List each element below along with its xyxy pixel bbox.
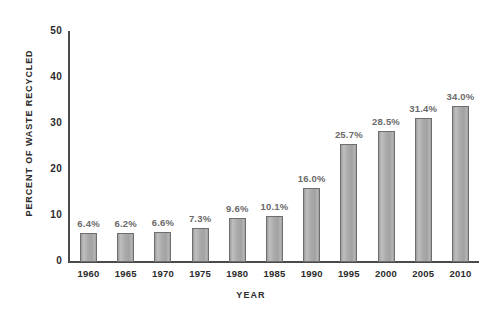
- y-tick-label: 20: [40, 163, 62, 174]
- bar-value-label: 7.3%: [175, 213, 225, 224]
- bar[interactable]: [192, 228, 209, 262]
- bar-chart: PERCENT OF WASTE RECYCLED 01020304050 6.…: [0, 0, 502, 324]
- y-tick-label: 10: [40, 209, 62, 220]
- x-tick-label: 2010: [443, 268, 477, 279]
- bar[interactable]: [452, 106, 469, 262]
- y-axis-title: PERCENT OF WASTE RECYCLED: [24, 33, 34, 233]
- bar[interactable]: [117, 233, 134, 262]
- y-axis-tick-labels: 01020304050: [38, 0, 62, 324]
- bar[interactable]: [303, 188, 320, 262]
- x-tick-label: 1965: [109, 268, 143, 279]
- x-axis-tick-labels: 1960196519701975198019851990199520002005…: [70, 268, 479, 284]
- bar[interactable]: [229, 218, 246, 262]
- x-tick-label: 2005: [406, 268, 440, 279]
- x-tick-label: 1960: [72, 268, 106, 279]
- bar-group: 7.3%: [182, 26, 219, 262]
- bar[interactable]: [415, 118, 432, 262]
- bar-group: 31.4%: [405, 26, 442, 262]
- x-axis-title: YEAR: [0, 290, 502, 300]
- plot-area: 6.4%6.2%6.6%7.3%9.6%10.1%16.0%25.7%28.5%…: [70, 26, 479, 262]
- x-tick-label: 1980: [220, 268, 254, 279]
- x-tick-label: 1970: [146, 268, 180, 279]
- bar-value-label: 28.5%: [361, 116, 411, 127]
- bar-value-label: 16.0%: [287, 173, 337, 184]
- y-tick-label: 40: [40, 71, 62, 82]
- bar-group: 9.6%: [219, 26, 256, 262]
- x-tick-label: 1990: [295, 268, 329, 279]
- x-tick-label: 2000: [369, 268, 403, 279]
- bar[interactable]: [378, 131, 395, 262]
- x-tick-label: 1975: [183, 268, 217, 279]
- y-tick-label: 0: [40, 255, 62, 266]
- bar-group: 6.6%: [144, 26, 181, 262]
- bar[interactable]: [154, 232, 171, 262]
- bar-group: 28.5%: [367, 26, 404, 262]
- bar-value-label: 34.0%: [435, 91, 485, 102]
- bar-group: 10.1%: [256, 26, 293, 262]
- bar-group: 16.0%: [293, 26, 330, 262]
- bar-value-label: 10.1%: [250, 201, 300, 212]
- x-tick-label: 1995: [332, 268, 366, 279]
- bar[interactable]: [266, 216, 283, 262]
- bar[interactable]: [340, 144, 357, 262]
- y-tick-label: 50: [40, 25, 62, 36]
- bar-group: 34.0%: [442, 26, 479, 262]
- bar-value-label: 25.7%: [324, 129, 374, 140]
- bar-group: 25.7%: [330, 26, 367, 262]
- bar-value-label: 31.4%: [398, 103, 448, 114]
- bar[interactable]: [80, 233, 97, 262]
- x-tick-label: 1985: [258, 268, 292, 279]
- y-tick-label: 30: [40, 117, 62, 128]
